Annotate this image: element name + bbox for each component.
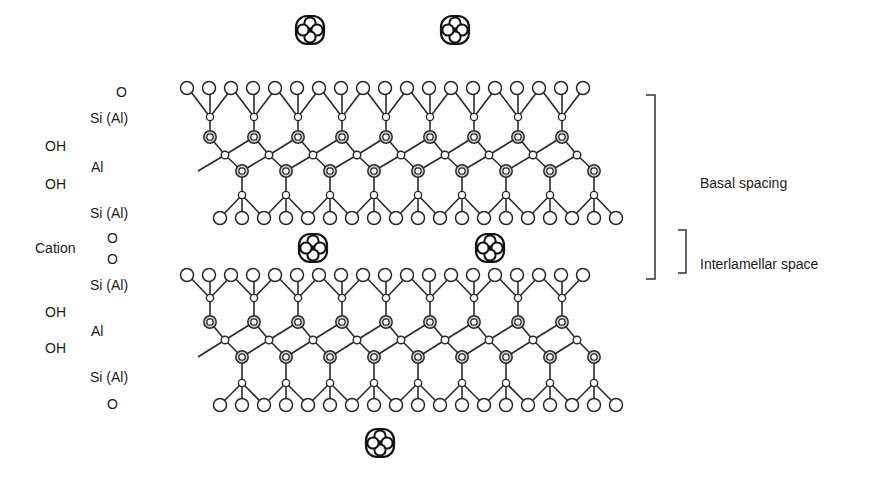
label-interlamellar-space: Interlamellar space [700,256,818,272]
hydroxyl-node [309,151,317,159]
silicon-atom [238,191,245,198]
apical-oxygen-inner [515,319,521,325]
silicon-atom [338,294,345,301]
hydroxyl-node [265,336,273,344]
apical-oxygen-inner [339,319,345,325]
label-basal-spacing: Basal spacing [700,175,787,191]
apical-oxygen-inner [251,134,257,140]
label-al-1: Al [91,159,103,175]
apical-oxygen-inner [591,168,597,174]
silicon-atom [382,294,389,301]
silicon-atom [326,191,333,198]
silicon-atom [338,113,345,120]
silicon-atom [326,379,333,386]
silicon-atom [426,294,433,301]
oxygen-atom [203,269,216,282]
oxygen-atom [522,399,535,412]
oxygen-atom [401,269,414,282]
oxygen-atom [456,212,469,225]
oxygen-atom [500,399,513,412]
apical-oxygen-inner [283,168,289,174]
oxygen-atom [588,212,601,225]
oxygen-atom [588,399,601,412]
silicon-atom [294,113,301,120]
oxygen-atom [533,269,546,282]
oxygen-atom [291,82,304,95]
oxygen-atom [467,82,480,95]
silicon-atom [414,191,421,198]
hydroxyl-node [441,151,449,159]
label-si-al-bottom-2: Si (Al) [90,369,128,385]
oxygen-atom [335,82,348,95]
silicon-atom [426,113,433,120]
silicon-atom [470,294,477,301]
oxygen-atom [467,269,480,282]
oxygen-atom [434,399,447,412]
oxygen-atom [269,82,282,95]
oxygen-atom [302,399,315,412]
silicon-atom [502,191,509,198]
apical-oxygen-inner [471,319,477,325]
hydroxyl-node [529,336,537,344]
oxygen-atom [313,82,326,95]
silicon-atom [546,379,553,386]
apical-oxygen-inner [415,168,421,174]
clay-layer-structure [0,0,875,483]
label-o-bottom: O [107,396,118,412]
apical-oxygen-inner [427,319,433,325]
label-oh-1a: OH [45,138,66,154]
apical-oxygen-inner [415,354,421,360]
silicon-atom [250,294,257,301]
hydroxyl-node [265,151,273,159]
label-oh-2a: OH [45,304,66,320]
silicon-atom [514,294,521,301]
smectite-structure-diagram: O Si (Al) OH Al OH Si (Al) O Cation O Si… [0,0,875,483]
oxygen-atom [324,212,337,225]
silicon-atom [414,379,421,386]
label-oh-1b: OH [45,176,66,192]
apical-oxygen-inner [547,168,553,174]
apical-oxygen-inner [503,168,509,174]
oxygen-atom [478,399,491,412]
apical-oxygen-inner [283,354,289,360]
apical-oxygen-inner [371,168,377,174]
label-cation: Cation [35,240,75,256]
oxygen-atom [478,212,491,225]
interlamellar-space-bracket [678,230,686,273]
hydroxyl-node [485,151,493,159]
silicon-atom [370,191,377,198]
oxygen-atom [434,212,447,225]
oxygen-atom [456,399,469,412]
oxygen-atom [346,399,359,412]
oxygen-atom [610,399,623,412]
label-o-interlayer-2: O [107,251,118,267]
oxygen-atom [489,82,502,95]
hydroxyl-node [221,336,229,344]
oxygen-atom [346,212,359,225]
oxygen-atom [225,82,238,95]
apical-oxygen-inner [295,134,301,140]
apical-oxygen-inner [559,319,565,325]
oxygen-atom [423,82,436,95]
oxygen-atom [203,82,216,95]
oxygen-atom [610,212,623,225]
oxygen-atom [302,212,315,225]
apical-oxygen-inner [515,134,521,140]
oxygen-atom [269,269,282,282]
apical-oxygen-inner [427,134,433,140]
apical-oxygen-inner [295,319,301,325]
oxygen-atom [445,269,458,282]
oxygen-atom [544,399,557,412]
oxygen-atom [368,212,381,225]
cation-icon [299,234,327,262]
cation-icon [296,16,324,44]
hydroxyl-node [485,336,493,344]
hydroxyl-node [353,151,361,159]
oxygen-atom [423,269,436,282]
oxygen-atom [500,212,513,225]
apical-oxygen-inner [383,319,389,325]
oxygen-atom [577,82,590,95]
oxygen-atom [181,269,194,282]
silicon-atom [558,113,565,120]
silicon-atom [250,113,257,120]
